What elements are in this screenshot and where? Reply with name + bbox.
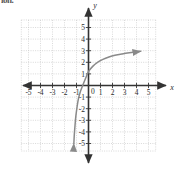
y-axis-label: y — [92, 1, 97, 10]
tick-label: -5 — [79, 139, 85, 148]
tick-label: -4 — [37, 88, 43, 97]
origin-label: 0 — [91, 87, 95, 96]
tick-label: -3 — [49, 88, 55, 97]
x-axis-label: x — [169, 83, 174, 92]
tick-label: -3 — [79, 116, 85, 125]
tick-label: 2 — [81, 58, 85, 67]
tick-label: -2 — [61, 88, 67, 97]
tick-label: 1 — [99, 88, 103, 97]
tick-label: 4 — [81, 35, 85, 44]
tick-label: 1 — [81, 70, 85, 79]
axes — [23, 8, 166, 163]
tick-label: 4 — [135, 88, 139, 97]
tick-label: 3 — [123, 88, 127, 97]
tick-label: -2 — [79, 105, 85, 114]
tick-label: -4 — [79, 128, 85, 137]
tick-label: 2 — [111, 88, 115, 97]
tick-label: -5 — [25, 88, 31, 97]
tick-label: 5 — [81, 23, 85, 32]
figure-container: ion. -5-4-3-2-112345-5-4-3-2-112345 x y … — [0, 0, 179, 170]
coordinate-plane-graph: -5-4-3-2-112345-5-4-3-2-112345 x y 0 — [0, 0, 179, 170]
tick-label: 3 — [81, 47, 85, 56]
tick-label: 5 — [147, 88, 151, 97]
